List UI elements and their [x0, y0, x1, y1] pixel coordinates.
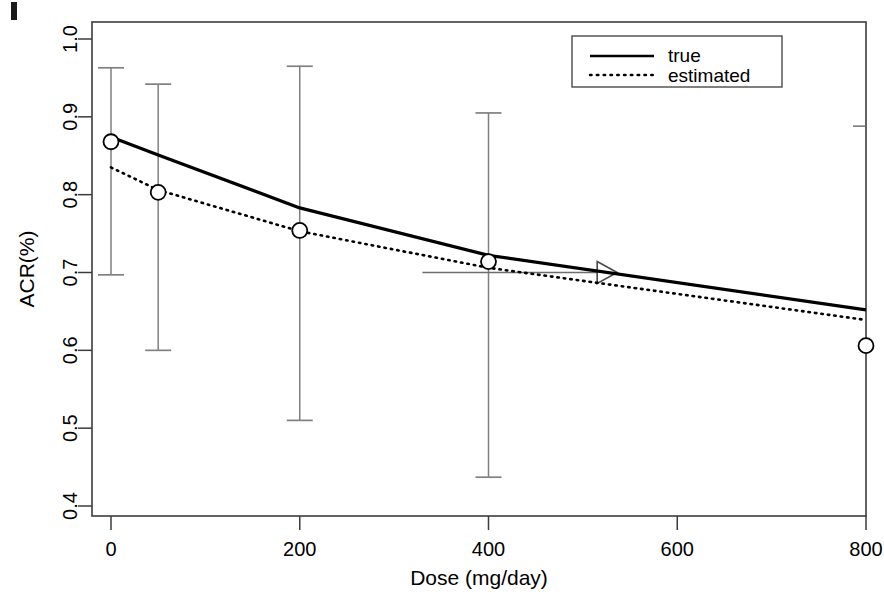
y-tick-label: 0.7 [59, 259, 81, 287]
chart-figure: 0200400600800 0.40.50.60.70.80.91.0 Dose… [0, 0, 884, 599]
legend-label-estimated: estimated [668, 65, 750, 86]
data-point-marker [151, 185, 166, 200]
scan-artifact [11, 2, 17, 20]
x-axis-ticks [111, 516, 866, 530]
y-tick-label: 1.0 [59, 25, 81, 53]
y-tick-label: 0.9 [59, 103, 81, 131]
x-tick-label: 200 [283, 538, 316, 560]
y-axis-title: ACR(%) [15, 231, 38, 308]
chart-legend: true estimated [572, 36, 782, 87]
legend-label-true: true [668, 45, 701, 66]
x-tick-label: 800 [849, 538, 882, 560]
y-tick-label: 0.5 [59, 414, 81, 442]
y-tick-label: 0.6 [59, 336, 81, 364]
x-tick-label: 0 [105, 538, 116, 560]
data-point-marker [481, 254, 496, 269]
y-tick-label: 0.8 [59, 181, 81, 209]
data-point-marker [292, 223, 307, 238]
data-point-marker [104, 134, 119, 149]
x-axis-tick-labels: 0200400600800 [105, 538, 882, 560]
x-tick-label: 600 [661, 538, 694, 560]
acr-dose-line-chart: 0200400600800 0.40.50.60.70.80.91.0 Dose… [0, 0, 884, 599]
x-axis-title: Dose (mg/day) [410, 566, 548, 589]
x-tick-label: 400 [472, 538, 505, 560]
error-bars-group [98, 66, 879, 541]
data-point-marker [859, 338, 874, 353]
y-tick-label: 0.4 [59, 492, 81, 520]
y-axis-tick-labels: 0.40.50.60.70.80.91.0 [59, 25, 81, 520]
plot-frame [92, 22, 866, 516]
